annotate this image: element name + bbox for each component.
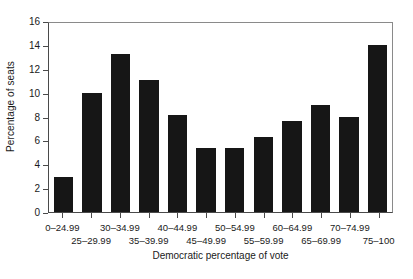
bar[interactable] — [339, 117, 358, 212]
x-axis-tick — [264, 213, 265, 218]
bar-slot — [335, 23, 364, 212]
y-axis-title: Percentage of seats — [2, 0, 18, 213]
plot-area — [48, 22, 393, 213]
x-axis-tick — [235, 213, 236, 218]
x-axis-tick — [321, 213, 322, 218]
histogram-chart: Percentage of seats 0246810121416 0–24.9… — [0, 0, 413, 279]
x-axis-tick-label: 45–49.99 — [180, 235, 232, 246]
x-axis-title: Democratic percentage of vote — [48, 250, 393, 261]
y-axis-tick-label: 0 — [14, 208, 40, 218]
x-axis-tick-label: 50–54.99 — [209, 222, 261, 233]
x-axis-tick — [379, 213, 380, 218]
bar-slot — [163, 23, 192, 212]
bar[interactable] — [82, 93, 101, 212]
y-axis-tick — [43, 213, 48, 214]
x-axis-tick-label: 25–29.99 — [65, 235, 117, 246]
x-axis-tick-label: 70–74.99 — [324, 222, 376, 233]
x-axis-tick — [206, 213, 207, 218]
y-axis-tick-label: 14 — [14, 41, 40, 51]
bar[interactable] — [225, 148, 244, 212]
bar-slot — [220, 23, 249, 212]
bar[interactable] — [282, 121, 301, 212]
y-axis-tick-label: 2 — [14, 184, 40, 194]
y-axis-tick-label: 4 — [14, 160, 40, 170]
bar-slot — [249, 23, 278, 212]
x-axis-tick — [177, 213, 178, 218]
bar[interactable] — [368, 45, 387, 212]
bar-slot — [306, 23, 335, 212]
x-axis-tick-label: 60–64.99 — [266, 222, 318, 233]
bar-slot — [78, 23, 107, 212]
bar-slot — [135, 23, 164, 212]
x-axis-tick — [292, 213, 293, 218]
bar[interactable] — [54, 177, 73, 212]
bar[interactable] — [196, 148, 215, 212]
y-axis-tick-label: 6 — [14, 136, 40, 146]
x-axis-tick-label: 55–59.99 — [238, 235, 290, 246]
x-axis-tick-label: 0–24.99 — [36, 222, 88, 233]
x-axis-tick-label: 40–44.99 — [151, 222, 203, 233]
x-axis-tick-label: 65–69.99 — [295, 235, 347, 246]
x-axis-tick — [62, 213, 63, 218]
bar[interactable] — [254, 137, 273, 212]
bar-slot — [106, 23, 135, 212]
bar[interactable] — [311, 105, 330, 212]
x-axis-tick-label: 35–39.99 — [123, 235, 175, 246]
y-axis-tick-label: 16 — [14, 17, 40, 27]
bar-slot — [363, 23, 392, 212]
y-axis-tick-label: 12 — [14, 65, 40, 75]
bar-slot — [192, 23, 221, 212]
bar[interactable] — [168, 115, 187, 212]
x-axis-tick — [350, 213, 351, 218]
y-axis-tick-label: 10 — [14, 89, 40, 99]
bars-layer — [49, 23, 392, 212]
y-axis-tick-label: 8 — [14, 113, 40, 123]
bar[interactable] — [111, 54, 130, 212]
bar-slot — [49, 23, 78, 212]
x-axis-tick — [120, 213, 121, 218]
bar-slot — [278, 23, 307, 212]
x-axis-tick-label: 75–100 — [353, 235, 405, 246]
x-axis-tick — [91, 213, 92, 218]
bar[interactable] — [139, 80, 158, 213]
x-axis-tick-label: 30–34.99 — [94, 222, 146, 233]
x-axis-tick — [149, 213, 150, 218]
